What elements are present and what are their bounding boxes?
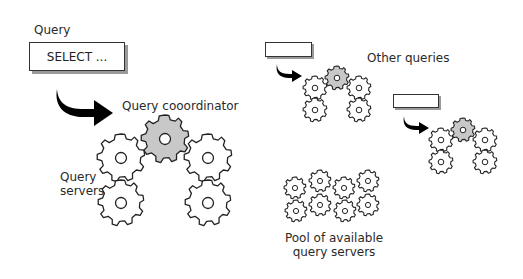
pool-gears xyxy=(284,170,379,222)
curved-arrow-icon xyxy=(404,116,429,134)
curved-arrow-icon xyxy=(56,89,113,126)
diagram-canvas xyxy=(0,0,523,279)
curved-arrow-icon xyxy=(277,64,302,82)
